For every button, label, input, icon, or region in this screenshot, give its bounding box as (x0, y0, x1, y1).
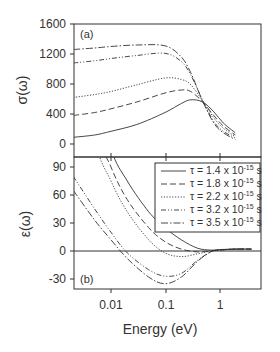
panel-b-y-ticks: 90 60 30 0 -30 (49, 160, 74, 286)
x-axis-title: Energy (eV) (123, 321, 198, 337)
panel-a-y-ticks: 1600 1200 800 400 0 (39, 17, 74, 151)
chart-figure: 1600 1200 800 400 0 90 60 30 0 -30 0.01 … (0, 0, 280, 352)
y-axis-title-sigma: σ(ω) (14, 76, 30, 105)
tick-label-a-1600: 1600 (39, 17, 66, 31)
tick-label-a-1200: 1200 (39, 47, 66, 61)
tick-label-a-400: 400 (46, 107, 66, 121)
panel-label-a: (a) (80, 28, 93, 40)
panel-a-frame (74, 24, 261, 157)
tick-label-x-0.1: 0.1 (158, 298, 175, 312)
panel-b-curves (73, 0, 251, 284)
tick-label-b-60: 60 (53, 188, 67, 202)
curve-a-2 (73, 90, 235, 135)
curve-a-5 (73, 45, 235, 140)
tick-label-x-1: 1 (217, 298, 224, 312)
tick-label-b-90: 90 (53, 160, 67, 174)
tick-label-b-0: 0 (59, 244, 66, 258)
curve-a-3 (73, 78, 235, 137)
curve-a-4 (73, 53, 235, 138)
y-axis-title-epsilon: ε(ω) (17, 211, 33, 238)
tick-label-a-800: 800 (46, 77, 66, 91)
legend: τ = 1.4 x 10-15 sτ = 1.8 x 10-15 sτ = 2.… (155, 163, 262, 232)
tick-label-x-0.01: 0.01 (99, 298, 123, 312)
tick-label-b-30: 30 (53, 216, 67, 230)
tick-label-b--30: -30 (49, 272, 67, 286)
tick-label-a-0: 0 (59, 137, 66, 151)
panel-a-curves (73, 45, 235, 140)
panel-label-b: (b) (80, 273, 93, 285)
